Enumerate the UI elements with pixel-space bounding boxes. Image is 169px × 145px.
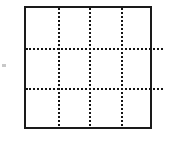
vertical-gridline-2 (89, 8, 91, 126)
left-edge-tick-icon (2, 64, 6, 67)
figure-canvas (0, 0, 169, 145)
vertical-gridline-3 (121, 8, 123, 126)
vertical-gridline-1 (58, 8, 60, 126)
horizontal-gridline-1 (26, 48, 163, 50)
outer-square-frame (24, 6, 152, 129)
horizontal-gridline-2 (26, 88, 163, 90)
